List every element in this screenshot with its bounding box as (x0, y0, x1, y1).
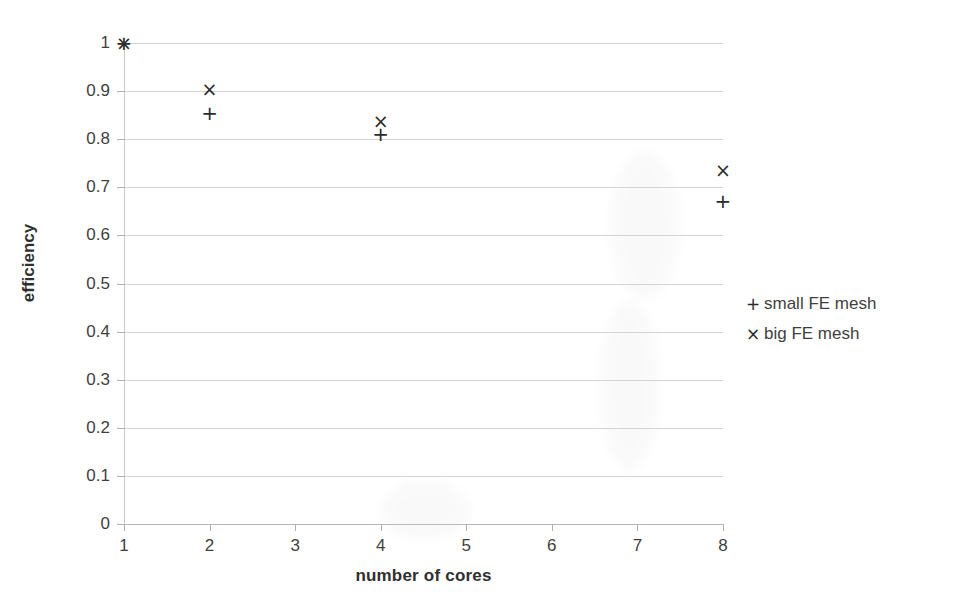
y-axis-tick (117, 428, 125, 429)
x-axis-tick-label: 7 (617, 536, 657, 556)
data-point: + (201, 103, 218, 123)
gridline (124, 139, 723, 140)
y-axis-tick (117, 332, 125, 333)
gridline (124, 476, 723, 477)
y-axis-tick-label: 0.8 (44, 130, 110, 147)
x-axis-tick (466, 524, 467, 531)
y-axis-title: efficiency (19, 203, 39, 323)
x-axis-tick (637, 524, 638, 531)
y-axis-tick-label: 0.1 (44, 467, 110, 484)
legend-label: small FE mesh (764, 294, 876, 314)
gridline (124, 332, 723, 333)
y-axis-tick-label: 0.6 (44, 226, 110, 243)
x-axis-tick (552, 524, 553, 531)
plus-marker-icon: + (746, 294, 764, 314)
x-axis-tick-label: 8 (703, 536, 743, 556)
y-axis-tick-label: 0.7 (44, 178, 110, 195)
chart-legend: + small FE mesh × big FE mesh (746, 289, 876, 349)
data-point: × (373, 111, 389, 130)
cross-marker-icon: × (746, 324, 764, 344)
y-axis-tick-label: 0.3 (44, 371, 110, 388)
y-axis-tick (117, 187, 125, 188)
gridline (124, 524, 723, 525)
legend-label: big FE mesh (764, 324, 859, 344)
y-axis-tick-label: 0.4 (44, 323, 110, 340)
x-axis-tick-label: 1 (104, 536, 144, 556)
gridline (124, 284, 723, 285)
y-axis-tick (117, 235, 125, 236)
y-axis-tick-label: 0 (44, 515, 110, 532)
x-axis-tick (210, 524, 211, 531)
y-axis-tick-label: 0.2 (44, 419, 110, 436)
x-axis-tick (723, 524, 724, 531)
x-axis-tick (381, 524, 382, 531)
data-point: × (116, 34, 132, 53)
y-axis-tick (117, 476, 125, 477)
x-axis-tick-label: 3 (275, 536, 315, 556)
data-point: + (715, 191, 732, 211)
x-axis-tick-label: 5 (446, 536, 486, 556)
scatter-chart: 10.90.80.70.60.50.40.30.20.10 12345678 +… (0, 0, 955, 613)
x-axis-title: number of cores (124, 566, 723, 586)
y-axis-tick-label: 0.9 (44, 82, 110, 99)
data-point: × (202, 79, 218, 98)
gridline (124, 380, 723, 381)
data-point: × (715, 161, 731, 180)
x-axis-tick-label: 4 (361, 536, 401, 556)
x-axis-tick (295, 524, 296, 531)
x-axis-tick-label: 6 (532, 536, 572, 556)
y-axis-tick (117, 380, 125, 381)
gridline (124, 187, 723, 188)
y-axis-tick-label: 0.5 (44, 275, 110, 292)
gridline (124, 235, 723, 236)
y-axis-tick-label: 1 (44, 34, 110, 51)
y-axis-tick (117, 284, 125, 285)
gridline (124, 428, 723, 429)
gridline (124, 43, 723, 44)
y-axis-tick (117, 139, 125, 140)
y-axis-tick (117, 91, 125, 92)
legend-item-big-fe-mesh: × big FE mesh (746, 319, 876, 349)
x-axis-tick (124, 524, 125, 531)
x-axis-tick-label: 2 (190, 536, 230, 556)
legend-item-small-fe-mesh: + small FE mesh (746, 289, 876, 319)
